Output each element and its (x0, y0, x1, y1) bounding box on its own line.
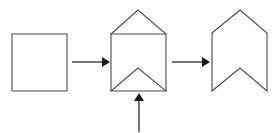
step-3-chevron-group (212, 10, 267, 91)
arrow-step2-to-step3-head (202, 57, 210, 67)
shape-transformation-diagram: Square to chevron shape transformation s… (0, 0, 280, 133)
arrow-input-to-step2 (134, 93, 144, 132)
step-1-square-outline (12, 34, 67, 91)
arrow-step1-to-step2-head (102, 57, 110, 67)
arrow-step1-to-step2 (72, 57, 110, 67)
arrow-input-to-step2-head (134, 93, 144, 101)
step-2-square-with-roof-group (111, 10, 166, 91)
step-1-square-group (12, 34, 67, 91)
step-2-outline (111, 10, 166, 91)
diagram-canvas: Square to chevron shape transformation s… (0, 0, 280, 133)
arrow-step2-to-step3 (172, 57, 210, 67)
step-3-chevron-outline (212, 10, 267, 91)
